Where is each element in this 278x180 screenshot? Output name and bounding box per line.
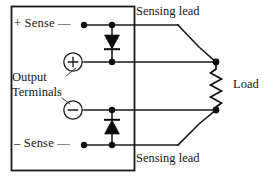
label-output-terminals: Output Terminals <box>12 70 62 101</box>
label-output-terminals-line2: Terminals <box>12 85 62 100</box>
lower-diode-triangle <box>105 120 120 134</box>
junction-dot-lower-diode-cathode <box>109 107 115 113</box>
wire-sensing-lead-bottom-diagonal <box>178 110 216 145</box>
label-load: Load <box>233 78 259 91</box>
junction-dot-upper-diode-cathode <box>109 59 115 65</box>
label-sensing-lead-top: Sensing lead <box>136 5 200 18</box>
label-sensing-lead-bottom: Sensing lead <box>136 152 200 165</box>
schematic-diagram: + Sense — – Sense — Output Terminals Sen… <box>0 0 278 180</box>
negative-output-terminal <box>64 101 82 119</box>
upper-diode-triangle <box>105 35 120 49</box>
wire-sensing-lead-top-diagonal <box>178 25 216 62</box>
label-minus-sense: – Sense — <box>14 137 70 150</box>
load-resistor-symbol <box>211 64 222 109</box>
junction-dot-lower-diode-anode <box>109 142 115 148</box>
label-plus-sense: + Sense — <box>14 17 71 30</box>
terminal-dot-minus-sense <box>81 142 87 148</box>
positive-output-terminal <box>64 53 82 71</box>
terminal-dot-plus-sense <box>81 22 87 28</box>
junction-dot-upper-diode-anode <box>109 22 115 28</box>
lower-protection-diode <box>104 120 120 134</box>
label-output-terminals-line1: Output <box>12 70 62 85</box>
upper-protection-diode <box>104 35 120 49</box>
